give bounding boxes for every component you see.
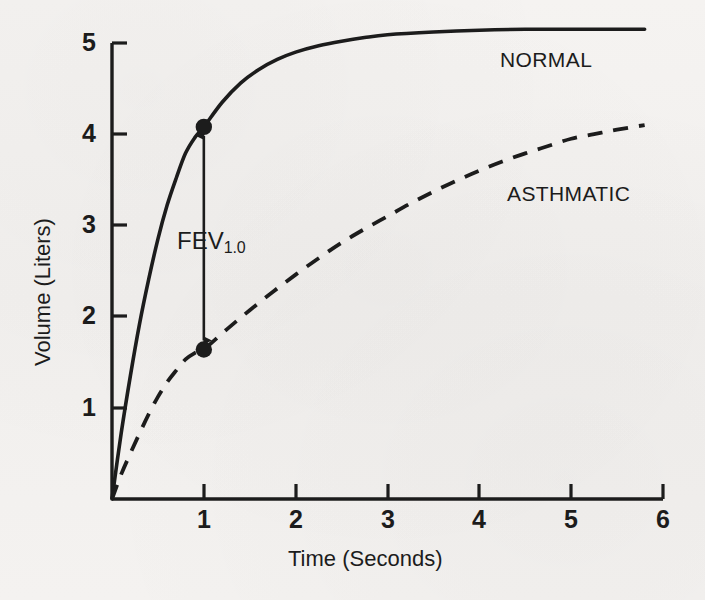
y-tick-label-2: 2 [72,301,96,330]
y-tick-label-4: 4 [72,119,96,148]
curve-normal [112,29,645,499]
data-point-asthmatic-1s [196,341,212,357]
x-tick-label-5: 5 [557,505,585,534]
y-axis-ticks [112,43,127,408]
y-axis-title: Volume (Liters) [30,218,56,366]
x-axis-title: Time (Seconds) [288,546,442,572]
x-tick-label-4: 4 [465,505,493,534]
data-point-normal-1s [196,119,212,135]
y-tick-label-3: 3 [72,210,96,239]
axis-lines [112,43,663,499]
x-tick-label-6: 6 [649,505,677,534]
figure-canvas: 5 4 3 2 1 1 2 3 4 5 6 NORMAL ASTHMATIC F… [0,0,705,600]
y-tick-label-1: 1 [72,393,96,422]
x-tick-label-2: 2 [282,505,310,534]
series-label-asthmatic: ASTHMATIC [507,182,630,206]
fev-annotation-subscript: 1.0 [224,239,246,256]
x-axis-ticks [204,484,663,499]
y-tick-label-5: 5 [72,28,96,57]
x-tick-label-1: 1 [190,505,218,534]
spirometry-plot [0,0,705,600]
fev-annotation-main: FEV [177,227,224,254]
x-tick-label-3: 3 [374,505,402,534]
series-label-normal: NORMAL [500,48,592,72]
fev-annotation-label: FEV1.0 [177,227,245,255]
